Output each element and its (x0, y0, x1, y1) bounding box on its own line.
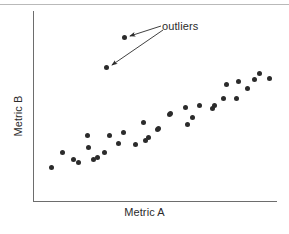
scatter-plot-figure: outliers Metric A Metric B (0, 0, 289, 234)
outliers-annotation-label: outliers (162, 20, 198, 32)
arrow-to-outlier-2 (112, 30, 163, 65)
x-axis-label: Metric A (0, 206, 289, 218)
y-axis-label: Metric B (12, 72, 24, 160)
annotation-arrows (0, 0, 289, 234)
